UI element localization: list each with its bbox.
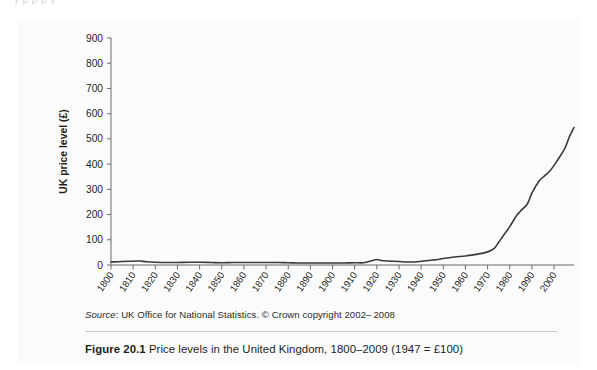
- figure-caption-text: Price levels in the United Kingdom, 1800…: [146, 343, 463, 355]
- source-note: Source: UK Office for National Statistic…: [85, 309, 395, 320]
- y-axis-tick-label: 300: [86, 184, 103, 195]
- source-text: UK Office for National Statistics. © Cro…: [121, 309, 395, 320]
- page-top-cut-text: y p p p y: [14, 0, 584, 5]
- y-axis-tick-label: 0: [97, 260, 103, 271]
- y-axis-tick-label: 700: [86, 83, 103, 94]
- y-axis-tick-label: 100: [86, 234, 103, 245]
- y-axis-tick-label: 600: [86, 108, 103, 119]
- y-axis-tick-label: 900: [86, 33, 103, 44]
- line-chart: 0100200300400500600700800900 18001810182…: [18, 20, 579, 320]
- caption-divider: [85, 331, 557, 332]
- y-axis-title-text: UK price level (£): [58, 109, 69, 193]
- y-axis-tick-label: 800: [86, 58, 103, 69]
- figure-caption-number: Figure 20.1: [85, 343, 146, 355]
- y-axis-tick-label: 500: [86, 133, 103, 144]
- chart-plot-area: 0100200300400500600700800900 18001810182…: [18, 20, 579, 320]
- y-axis-tick-label: 200: [86, 209, 103, 220]
- y-axis-title: UK price level (£): [58, 109, 69, 193]
- figure-caption: Figure 20.1 Price levels in the United K…: [85, 343, 463, 355]
- figure-panel: FIGURE 20.1 0100200300400500600700800900…: [18, 20, 579, 365]
- y-axis-tick-label: 400: [86, 159, 103, 170]
- source-label: Source: [85, 309, 116, 320]
